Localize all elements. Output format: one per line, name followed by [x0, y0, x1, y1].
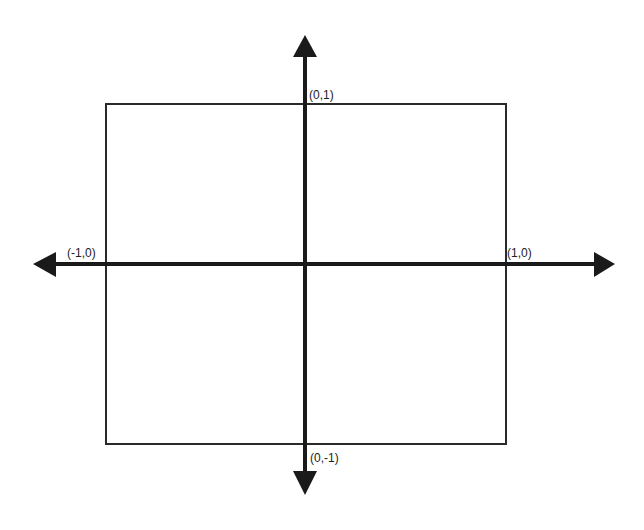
label-left: (-1,0)	[67, 247, 96, 259]
arrow-left-icon	[33, 252, 56, 277]
arrow-right-icon	[594, 252, 615, 277]
arrow-up-icon	[293, 35, 317, 57]
label-right: (1,0)	[507, 247, 532, 259]
arrow-down-icon	[293, 471, 317, 495]
label-bottom: (0,-1)	[310, 452, 339, 464]
label-top: (0,1)	[309, 89, 334, 101]
